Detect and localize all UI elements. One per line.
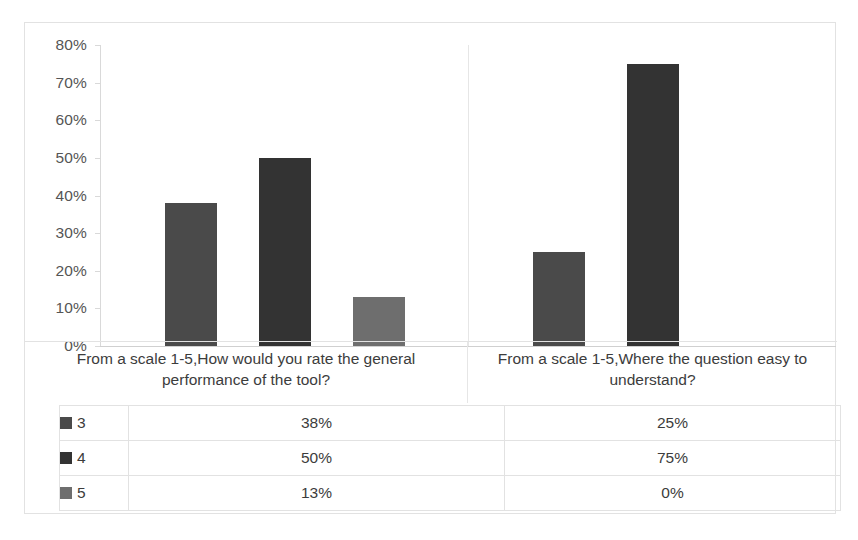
y-tick-label: 20% xyxy=(55,262,87,280)
legend-key-label: 3 xyxy=(77,414,86,432)
category-label-0: From a scale 1-5,How would you rate the … xyxy=(25,342,468,403)
y-tick-label: 10% xyxy=(55,299,87,317)
y-tick-label: 50% xyxy=(55,149,87,167)
bar-series-3-category-1[interactable] xyxy=(533,252,585,346)
y-tick-label: 70% xyxy=(55,74,87,92)
table-cell-series-3-category-1: 25% xyxy=(505,406,841,441)
table-cell-series-4-category-1: 75% xyxy=(505,441,841,476)
table-cell-series-4-category-0: 50% xyxy=(129,441,505,476)
bars-row-1 xyxy=(469,45,836,346)
legend-swatch-icon xyxy=(60,417,72,429)
legend-key-label: 4 xyxy=(77,449,86,467)
table-cell-series-3-category-0: 38% xyxy=(129,406,505,441)
bar-series-4-category-1[interactable] xyxy=(627,64,679,346)
y-tick-label: 40% xyxy=(55,187,87,205)
y-tick-mark xyxy=(95,308,100,309)
category-group-1 xyxy=(469,45,836,346)
y-tick-mark xyxy=(95,45,100,46)
legend-cell-5: 5 xyxy=(60,476,129,511)
bar-series-4-category-0[interactable] xyxy=(259,158,311,346)
legend-swatch-icon xyxy=(60,452,72,464)
bar-series-5-category-0[interactable] xyxy=(353,297,405,346)
y-tick-mark xyxy=(95,233,100,234)
table-cell-series-5-category-1: 0% xyxy=(505,476,841,511)
y-tick-mark xyxy=(95,158,100,159)
legend-cell-4: 4 xyxy=(60,441,129,476)
chart-data-table: 338%25%450%75%513%0% xyxy=(59,405,841,511)
y-tick-label: 30% xyxy=(55,224,87,242)
table-row: 338%25% xyxy=(60,406,841,441)
table-cell-series-5-category-0: 13% xyxy=(129,476,505,511)
data-table-body: 338%25%450%75%513%0% xyxy=(60,406,841,511)
y-tick-mark xyxy=(95,271,100,272)
table-row: 450%75% xyxy=(60,441,841,476)
plot-area xyxy=(101,45,836,346)
legend-cell-3: 3 xyxy=(60,406,129,441)
y-tick-label: 80% xyxy=(55,36,87,54)
category-group-0 xyxy=(101,45,468,346)
bars-row-0 xyxy=(101,45,468,346)
legend-swatch-icon xyxy=(60,487,72,499)
y-axis: 80%70%60%50%40%30%20%10%0% xyxy=(25,23,93,341)
bar-series-3-category-0[interactable] xyxy=(165,203,217,346)
legend-key-label: 5 xyxy=(77,484,86,502)
y-tick-mark xyxy=(95,196,100,197)
category-label-band: From a scale 1-5,How would you rate the … xyxy=(25,341,837,403)
y-tick-label: 60% xyxy=(55,111,87,129)
y-tick-mark xyxy=(95,120,100,121)
category-label-1: From a scale 1-5,Where the question easy… xyxy=(468,342,837,403)
table-row: 513%0% xyxy=(60,476,841,511)
plot-region: 80%70%60%50%40%30%20%10%0% xyxy=(25,23,837,341)
y-tick-mark xyxy=(95,83,100,84)
chart-frame: 80%70%60%50%40%30%20%10%0% From a scale … xyxy=(24,22,836,514)
